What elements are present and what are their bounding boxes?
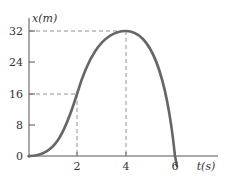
y-tick-label: 32	[9, 25, 23, 38]
x-tick-label: 6	[172, 160, 179, 173]
y-tick-label: 0	[16, 150, 23, 163]
y-tick-label: 8	[16, 119, 23, 132]
position-curve	[29, 31, 177, 166]
y-axis-label: x(m)	[32, 12, 57, 25]
x-tick-label: 4	[123, 160, 130, 173]
y-tick-label: 16	[9, 88, 23, 101]
position-time-chart: 32 24 16 8 0 2 4 6 x(m) t(s)	[0, 0, 229, 181]
chart-svg: 32 24 16 8 0 2 4 6 x(m) t(s)	[0, 0, 229, 181]
y-tick-label: 24	[9, 56, 23, 69]
x-axis-label: t(s)	[197, 160, 216, 173]
x-tick-label: 2	[74, 160, 81, 173]
